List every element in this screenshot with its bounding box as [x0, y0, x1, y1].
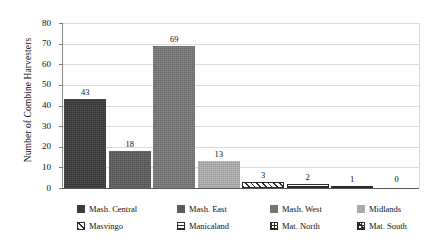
gridline: [63, 85, 419, 86]
bar-mash-west[interactable]: [153, 46, 195, 188]
y-tick-label: 0: [11, 184, 51, 193]
bar-value-label: 69: [153, 35, 195, 44]
legend-swatch-icon: [77, 205, 85, 213]
y-tick-mark: [59, 85, 63, 86]
bar-value-label: 2: [287, 173, 329, 182]
legend-label: Manicaland: [189, 222, 229, 231]
legend-swatch-icon: [270, 222, 278, 230]
plot-frame-right-edge: [419, 23, 420, 188]
y-tick-mark: [59, 44, 63, 45]
bar-value-label: 43: [64, 88, 106, 97]
y-tick-label: 80: [11, 19, 51, 28]
bar-value-label: 13: [198, 150, 240, 159]
gridline: [63, 23, 419, 24]
y-tick-mark: [59, 126, 63, 127]
y-tick-label: 40: [11, 101, 51, 110]
y-tick-mark: [59, 23, 63, 24]
bar-midlands[interactable]: [198, 161, 240, 188]
legend-label: Midlands: [369, 205, 401, 214]
y-tick-label: 20: [11, 142, 51, 151]
chart-legend: Mash. CentralMash. EastMash. WestMidland…: [62, 205, 418, 245]
y-tick-label: 70: [11, 39, 51, 48]
legend-label: Mat. North: [282, 222, 320, 231]
legend-item-mat-south[interactable]: Mat. South: [357, 222, 407, 231]
legend-item-mash-east[interactable]: Mash. East: [177, 205, 227, 214]
bar-mash-central[interactable]: [64, 99, 106, 188]
legend-item-manicaland[interactable]: Manicaland: [177, 222, 229, 231]
bar-manicaland[interactable]: [287, 184, 329, 188]
legend-swatch-icon: [177, 222, 185, 230]
legend-item-masvingo[interactable]: Masvingo: [77, 222, 123, 231]
gridline: [63, 44, 419, 45]
bar-value-label: 1: [331, 175, 373, 184]
y-tick-label: 60: [11, 60, 51, 69]
y-tick-label: 10: [11, 163, 51, 172]
legend-label: Mash. West: [282, 205, 322, 214]
y-tick-mark: [59, 147, 63, 148]
y-tick-label: 50: [11, 80, 51, 89]
y-tick-label: 30: [11, 122, 51, 131]
bar-mash-east[interactable]: [109, 151, 151, 188]
y-tick-mark: [59, 64, 63, 65]
legend-item-mash-west[interactable]: Mash. West: [270, 205, 322, 214]
y-tick-mark: [59, 167, 63, 168]
legend-item-mat-north[interactable]: Mat. North: [270, 222, 320, 231]
gridline: [63, 64, 419, 65]
legend-swatch-icon: [177, 205, 185, 213]
y-tick-mark: [59, 188, 63, 189]
bar-mat-north[interactable]: [331, 186, 373, 189]
legend-swatch-icon: [270, 205, 278, 213]
legend-item-mash-central[interactable]: Mash. Central: [77, 205, 137, 214]
legend-swatch-icon: [357, 205, 365, 213]
bar-masvingo[interactable]: [242, 182, 284, 188]
bar-value-label: 18: [109, 140, 151, 149]
legend-swatch-icon: [357, 222, 365, 230]
y-tick-mark: [59, 106, 63, 107]
gridline: [63, 106, 419, 107]
legend-swatch-icon: [77, 222, 85, 230]
legend-label: Mat. South: [369, 222, 407, 231]
legend-label: Mash. Central: [89, 205, 137, 214]
legend-label: Mash. East: [189, 205, 227, 214]
legend-item-midlands[interactable]: Midlands: [357, 205, 401, 214]
legend-label: Masvingo: [89, 222, 123, 231]
bar-value-label: 3: [242, 171, 284, 180]
bar-chart-figure: Number of Combine Harvesters 01020304050…: [0, 0, 436, 249]
plot-area: 01020304050607080 431869133210: [62, 23, 419, 189]
bar-value-label: 0: [376, 175, 418, 184]
gridline: [63, 126, 419, 127]
